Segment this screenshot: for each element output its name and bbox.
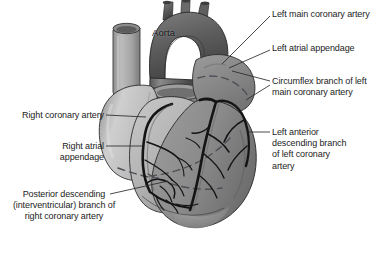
callout-left-atrial-appendage: Left atrial appendage [272, 43, 364, 54]
callout-posterior-descending-branch: Posterior descending (interventricular) … [8, 189, 120, 223]
callout-right-coronary-artery: Right coronary artery [16, 110, 104, 121]
callout-right-atrial-appendage: Right atrial appendage [16, 141, 104, 163]
heart-illustration [99, 0, 256, 228]
leader-left-main-coronary-artery [222, 16, 270, 64]
callout-left-anterior-descending-branch: Left anterior descending branch of left … [272, 127, 348, 172]
aorta-label: Aorta [152, 27, 175, 38]
callout-left-main-coronary-artery: Left main coronary artery [272, 9, 372, 20]
callout-circumflex-branch: Circumflex branch of left main coronary … [272, 76, 372, 98]
